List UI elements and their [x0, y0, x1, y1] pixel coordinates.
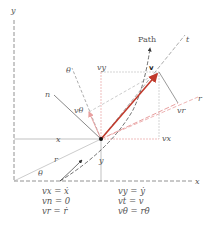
v-theta-vector: [89, 112, 101, 139]
equation-vn: vn = 0: [42, 196, 70, 206]
equation-vtheta: vθ = rθ̇: [118, 206, 150, 216]
equations-right: vy = ẏ vt = v vθ = rθ̇: [118, 186, 150, 216]
theta-angle-label: θ: [38, 169, 43, 178]
particle: [99, 137, 103, 141]
t-axis-label: t: [186, 35, 190, 44]
v-x-label: vx: [162, 134, 172, 143]
v-theta-label: vθ: [74, 106, 84, 115]
equations-left: vx = ẋ vn = 0 vr = ṙ: [42, 186, 70, 216]
theta-axis-label: θ: [66, 66, 71, 75]
y-dimension-label: y: [98, 156, 104, 165]
y-axis-label: y: [10, 6, 16, 15]
kinematics-diagram: y x Path t r n θ v vθ vy vr vx x y r θ: [0, 0, 209, 227]
r-axis-label: r: [198, 94, 203, 103]
n-axis-label: n: [45, 90, 50, 99]
v-y-label: vy: [97, 63, 107, 72]
v-r-label: vr: [177, 106, 187, 115]
equation-vr: vr = ṙ: [42, 206, 70, 216]
equation-vy: vy = ẏ: [118, 186, 150, 196]
path-label: Path: [138, 35, 156, 44]
n-axis: [54, 95, 101, 139]
velocity-vector: [101, 74, 157, 139]
equation-vx: vx = ẋ: [42, 186, 70, 196]
x-axis-label: x: [195, 177, 200, 186]
x-dimension-label: x: [56, 135, 61, 144]
velocity-label: v: [149, 64, 154, 72]
equation-vt: vt = v: [118, 196, 150, 206]
